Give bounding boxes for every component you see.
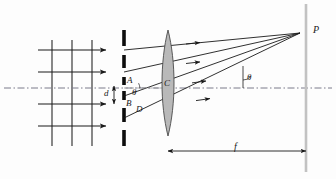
ray-direction-arrows [186, 43, 210, 101]
label-focal-point-P: P [313, 25, 319, 35]
theta-angle-marker-slit [139, 83, 140, 88]
label-point-A: A [127, 76, 133, 85]
label-slit-spacing-d: d [104, 89, 109, 98]
diffracted-ray-group [124, 33, 300, 118]
label-point-D: D [136, 105, 143, 114]
optics-ray-diagram: A B C D d θ θ P f [0, 0, 336, 179]
plane-wavefront-grid [52, 40, 92, 146]
label-point-B: B [126, 99, 132, 108]
label-angle-theta-slit: θ [132, 88, 136, 97]
label-focal-length-f: f [234, 142, 237, 152]
label-angle-theta-screen: θ [247, 73, 251, 82]
diagram-canvas [0, 0, 336, 179]
label-lens-C: C [164, 79, 170, 88]
